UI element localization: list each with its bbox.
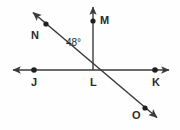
geometry-figure: N M J L K O 48° [0, 0, 180, 130]
point-dot-m [90, 18, 95, 23]
point-label-j: J [31, 77, 37, 88]
point-label-m: M [100, 15, 109, 26]
point-dot-j [31, 67, 37, 73]
point-label-k: K [152, 77, 160, 88]
point-label-l: L [90, 77, 97, 88]
line-no [33, 13, 157, 118]
point-dot-k [152, 67, 158, 73]
point-dot-o [142, 105, 147, 110]
point-label-o: O [132, 110, 141, 121]
point-label-n: N [31, 30, 39, 41]
figure-drawing [0, 0, 180, 130]
angle-measure-label: 48° [66, 38, 81, 48]
point-dot-n [43, 21, 48, 26]
